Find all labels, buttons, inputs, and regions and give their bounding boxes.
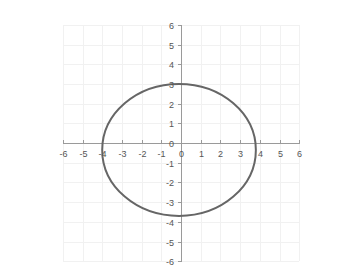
y-tick-label: -2: [166, 178, 174, 188]
y-tick-label: 6: [169, 21, 174, 31]
x-tick-label: 2: [218, 149, 223, 159]
y-tick-label: 0: [169, 139, 174, 149]
x-tick-label: 0: [179, 149, 184, 159]
y-tick-label: -4: [166, 218, 174, 228]
x-tick-label: 4: [258, 149, 263, 159]
x-tick-label: -5: [79, 149, 87, 159]
x-tick-label: -6: [59, 149, 67, 159]
y-tick-label: 2: [169, 100, 174, 110]
x-tick-label: -1: [157, 149, 165, 159]
y-tick-label: -5: [166, 238, 174, 248]
x-tick-label: 1: [199, 149, 204, 159]
y-tick-label: -3: [166, 198, 174, 208]
x-tick-label: 6: [297, 149, 302, 159]
x-tick-label: -3: [118, 149, 126, 159]
y-tick-label: 5: [169, 41, 174, 51]
y-tick-label: -6: [166, 257, 174, 267]
x-tick-label: 3: [238, 149, 243, 159]
y-tick-label: 1: [169, 119, 174, 129]
y-tick-label: 3: [169, 80, 174, 90]
y-tick-label: 4: [169, 60, 174, 70]
ellipse-plot-svg: -6-5-4-3-2-10123456-6-5-4-3-2-10123456: [0, 0, 362, 278]
chart-canvas: -6-5-4-3-2-10123456-6-5-4-3-2-10123456: [0, 0, 362, 278]
y-tick-label: -1: [166, 159, 174, 169]
x-tick-label: 5: [278, 149, 283, 159]
x-tick-label: -2: [138, 149, 146, 159]
x-tick-label: -4: [98, 149, 106, 159]
